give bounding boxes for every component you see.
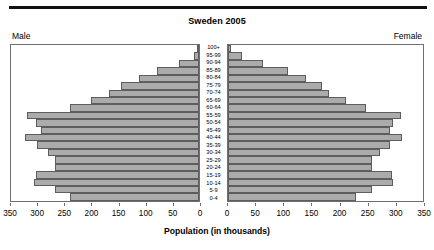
male-bar — [179, 60, 199, 67]
female-bar — [228, 82, 322, 89]
male-panel-label: Male — [12, 31, 30, 41]
pyramid-row — [11, 186, 199, 193]
header-rule — [9, 6, 427, 9]
male-bar — [91, 97, 200, 104]
axis-tick-label: 350 — [417, 209, 431, 218]
axis-tick-mark — [64, 203, 65, 206]
male-bar — [121, 82, 199, 89]
male-bar — [34, 179, 199, 186]
pyramid-row — [228, 149, 423, 156]
female-bar — [228, 134, 402, 141]
female-bar — [228, 90, 329, 97]
pyramid-row — [228, 104, 423, 111]
age-group-label: 70-74 — [200, 89, 227, 97]
axis-tick-label: 50 — [251, 209, 260, 218]
age-group-label: 35-39 — [200, 142, 227, 150]
age-group-label: 95-99 — [200, 52, 227, 60]
male-bar — [70, 193, 199, 200]
male-x-axis: 350300250200150100500 — [10, 206, 200, 222]
pyramid-row — [11, 75, 199, 82]
axis-tick-mark — [340, 203, 341, 206]
axis-tick-mark — [311, 203, 312, 206]
pyramid-row — [11, 90, 199, 97]
female-bar — [228, 60, 263, 67]
age-group-label: 0-4 — [200, 195, 227, 203]
age-group-label: 90-94 — [200, 59, 227, 67]
axis-tick-mark — [200, 203, 201, 206]
female-bar — [228, 45, 231, 52]
population-pyramid-plot: 100+95-9990-9485-8980-8475-7970-7465-696… — [0, 44, 434, 206]
pyramid-row — [11, 179, 199, 186]
axis-tick-mark — [396, 203, 397, 206]
pyramid-row — [228, 52, 423, 59]
age-group-label: 45-49 — [200, 127, 227, 135]
pyramid-row — [228, 134, 423, 141]
axis-tick-label: 200 — [85, 209, 99, 218]
female-bar — [228, 156, 372, 163]
axis-tick-mark — [173, 203, 174, 206]
pyramid-row — [11, 171, 199, 178]
age-group-label: 85-89 — [200, 67, 227, 75]
male-bar — [27, 112, 199, 119]
axis-tick-mark — [424, 203, 425, 206]
x-axis-caption: Population (in thousands) — [0, 226, 434, 236]
pyramid-row — [228, 186, 423, 193]
male-bar — [197, 45, 199, 52]
axis-tick-label: 0 — [198, 209, 203, 218]
female-bar — [228, 52, 242, 59]
male-bar — [25, 134, 199, 141]
female-bar — [228, 186, 372, 193]
male-bar — [36, 171, 199, 178]
female-bar — [228, 104, 366, 111]
female-bar — [228, 193, 356, 200]
axis-tick-mark — [227, 203, 228, 206]
pyramid-row — [228, 112, 423, 119]
pyramid-row — [11, 60, 199, 67]
female-bar — [228, 179, 393, 186]
male-bar — [55, 186, 199, 193]
male-bar — [48, 149, 199, 156]
male-bars-panel — [10, 44, 200, 202]
pyramid-row — [228, 82, 423, 89]
axis-tick-label: 150 — [305, 209, 319, 218]
pyramid-row — [228, 156, 423, 163]
male-bar — [157, 67, 199, 74]
axis-tick-mark — [146, 203, 147, 206]
axis-tick-mark — [10, 203, 11, 206]
age-group-label: 25-29 — [200, 157, 227, 165]
female-bar — [228, 149, 380, 156]
female-bar — [228, 164, 372, 171]
female-x-axis: 050100150200250300350 — [227, 206, 424, 222]
axis-tick-mark — [368, 203, 369, 206]
age-group-label: 40-44 — [200, 134, 227, 142]
pyramid-row — [228, 119, 423, 126]
pyramid-row — [11, 82, 199, 89]
axis-tick-mark — [119, 203, 120, 206]
pyramid-row — [11, 134, 199, 141]
pyramid-row — [228, 141, 423, 148]
pyramid-row — [228, 90, 423, 97]
pyramid-row — [228, 171, 423, 178]
age-group-label: 5-9 — [200, 187, 227, 195]
axis-tick-mark — [37, 203, 38, 206]
axis-tick-mark — [283, 203, 284, 206]
female-bar — [228, 171, 392, 178]
pyramid-row — [228, 164, 423, 171]
axis-tick-mark — [91, 203, 92, 206]
male-bar — [55, 156, 199, 163]
pyramid-row — [11, 141, 199, 148]
pyramid-row — [228, 97, 423, 104]
axis-tick-label: 300 — [30, 209, 44, 218]
axis-tick-mark — [255, 203, 256, 206]
female-bar — [228, 97, 346, 104]
male-bar-rows — [11, 45, 199, 201]
pyramid-row — [11, 104, 199, 111]
pyramid-row — [11, 149, 199, 156]
pyramid-row — [11, 119, 199, 126]
female-bar — [228, 141, 390, 148]
age-group-label: 55-59 — [200, 112, 227, 120]
pyramid-row — [11, 164, 199, 171]
axis-tick-label: 0 — [225, 209, 230, 218]
pyramid-row — [11, 67, 199, 74]
pyramid-row — [228, 127, 423, 134]
